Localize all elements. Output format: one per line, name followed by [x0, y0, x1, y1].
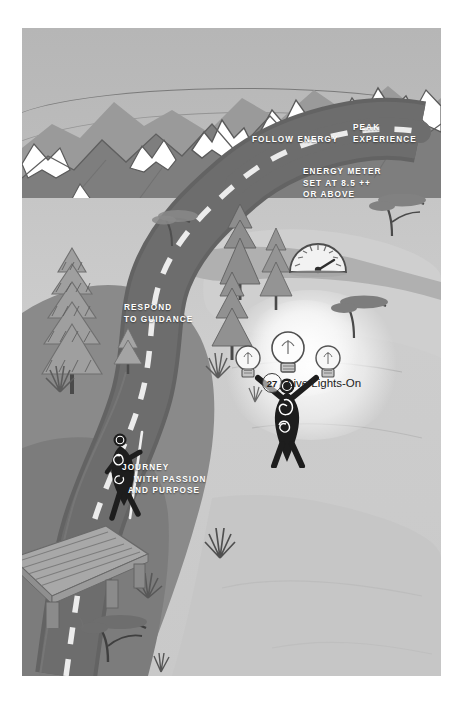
label-energy-meter-line3: OR ABOVE: [303, 189, 382, 201]
label-journey-line1: JOURNEY: [122, 462, 207, 474]
chapter-title: Live Lights-On: [287, 377, 361, 389]
grass-tuft-lower: [198, 520, 242, 560]
illustration-page: PEAK EXPERIENCE FOLLOW ENERGY ENERGY MET…: [0, 0, 463, 727]
label-respond-to-guidance: RESPOND TO GUIDANCE: [124, 302, 193, 325]
label-follow-energy: FOLLOW ENERGY: [252, 134, 339, 146]
label-respond-line2: TO GUIDANCE: [124, 314, 193, 326]
label-journey-line2: WITH PASSION: [122, 474, 207, 486]
chapter-number: 27: [262, 373, 282, 393]
label-peak-experience: PEAK EXPERIENCE: [353, 122, 441, 145]
label-energy-meter-line1: ENERGY METER: [303, 166, 382, 178]
grass-tuft-left: [40, 358, 80, 394]
grass-tuft-bottom: [148, 648, 174, 674]
label-journey-passion-purpose: JOURNEY WITH PASSION AND PURPOSE: [122, 462, 207, 497]
chapter-marker: 27 Live Lights-On: [262, 373, 361, 393]
label-journey-line3: AND PURPOSE: [122, 485, 207, 497]
label-energy-meter: ENERGY METER SET AT 8.5 ++ OR ABOVE: [303, 166, 382, 201]
energy-meter-gauge: [286, 232, 350, 278]
landscape-illustration: PEAK EXPERIENCE FOLLOW ENERGY ENERGY MET…: [22, 28, 441, 676]
label-respond-line1: RESPOND: [124, 302, 193, 314]
label-energy-meter-line2: SET AT 8.5 ++: [303, 178, 382, 190]
windswept-tree-upper-left: [142, 198, 212, 248]
